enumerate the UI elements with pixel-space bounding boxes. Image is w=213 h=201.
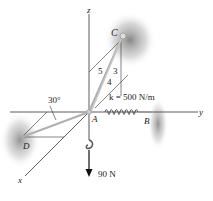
statics-diagram: z y x C A B D 5 3 4 30° k = 500 N/m 90 N — [0, 0, 213, 201]
angle-arc — [50, 106, 56, 120]
slope-label-3: 3 — [113, 66, 118, 76]
load-label: 90 N — [98, 169, 116, 179]
x-axis-label: x — [17, 175, 22, 185]
point-d-label: D — [22, 141, 30, 151]
z-axis-label: z — [86, 5, 91, 15]
slope-label-5: 5 — [98, 66, 103, 76]
arrow-down-icon — [86, 169, 93, 177]
spring-constant-label: k = 500 N/m — [109, 92, 155, 102]
ring-a — [87, 110, 92, 115]
hook-icon — [86, 140, 92, 149]
wall-shadow-b — [148, 98, 168, 150]
y-axis-label: y — [198, 107, 203, 117]
slope-label-4: 4 — [107, 77, 112, 87]
point-c-label: C — [111, 27, 118, 38]
angle-label: 30° — [48, 95, 61, 105]
point-b-label: B — [144, 116, 150, 126]
anchor-c — [120, 33, 126, 39]
wall-shadow-d — [0, 112, 40, 168]
point-a-label: A — [91, 114, 98, 124]
